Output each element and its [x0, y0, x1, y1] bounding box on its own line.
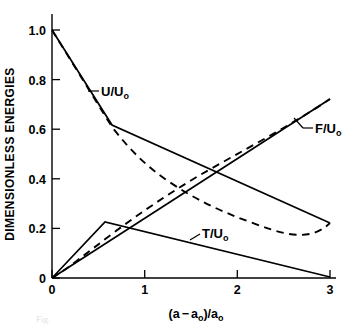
curve-label-u-over-u0: U/Uo	[101, 84, 129, 101]
x-axis-title: (a−ao)/ao	[169, 307, 224, 323]
y-tick-label-0: 0	[39, 272, 46, 286]
x-title-open: (a	[169, 307, 181, 321]
y-tick-label-0.2: 0.2	[29, 222, 46, 236]
curve-label-u-sub: o	[123, 91, 129, 101]
x-tick-label-3: 3	[327, 283, 334, 297]
chart-svg: 0 0.2 0.4 0.6 0.8 1.0 0 1 2 3 DIMENSIONL…	[0, 0, 358, 325]
curve-label-f-sub: o	[336, 128, 342, 138]
x-title-sub-o-2: o	[218, 313, 224, 323]
x-title-close: )/a	[203, 307, 219, 321]
x-axis-title-group: (a−ao)/ao	[169, 307, 224, 323]
x-title-minus: −	[182, 307, 189, 321]
y-tick-label-0.6: 0.6	[29, 123, 46, 137]
axes-group	[52, 14, 336, 278]
curve-label-f-over-u0: F/Uo	[315, 121, 342, 138]
y-tick-labels: 0 0.2 0.4 0.6 0.8 1.0	[29, 24, 46, 286]
curve-label-f-main: F/U	[315, 121, 336, 136]
curve-label-t-main: T/U	[202, 226, 223, 241]
label-f-over-u0-group: F/Uo	[294, 118, 342, 138]
y-tick-label-0.8: 0.8	[29, 74, 46, 88]
y-tick-label-0.4: 0.4	[29, 173, 46, 187]
x-tick-label-2: 2	[234, 283, 241, 297]
x-tick-label-1: 1	[141, 283, 148, 297]
curve-t-over-u0-solid	[52, 222, 330, 278]
curve-label-t-sub: o	[223, 233, 229, 243]
leader-line-t	[190, 234, 200, 240]
curve-f-over-u0-solid	[52, 99, 330, 278]
x-tick-labels: 0 1 2 3	[49, 283, 334, 297]
y-tick-label-1.0: 1.0	[29, 24, 46, 38]
figure-container: 0 0.2 0.4 0.6 0.8 1.0 0 1 2 3 DIMENSIONL…	[0, 0, 358, 325]
curve-label-t-over-u0: T/Uo	[202, 226, 229, 243]
y-axis-title: DIMENSIONLESS ENERGIES	[3, 67, 17, 241]
y-axis-title-group: DIMENSIONLESS ENERGIES	[3, 67, 17, 241]
x-tick-label-0: 0	[49, 283, 56, 297]
curve-label-u-main: U/U	[101, 84, 123, 99]
figure-caption-fragment: Fig.	[36, 314, 50, 324]
label-t-over-u0-group: T/Uo	[190, 226, 229, 243]
